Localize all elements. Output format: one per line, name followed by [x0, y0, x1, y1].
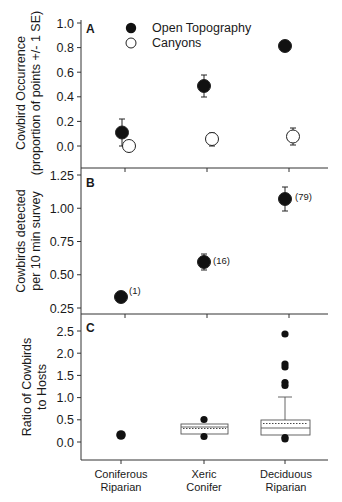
outlier-point — [281, 363, 288, 370]
figure: 0.0 0.2 0.4 0.6 0.8 1.0 Cowbird Occurren… — [0, 0, 342, 502]
outlier-point — [281, 330, 288, 337]
data-point — [279, 193, 292, 206]
data-point — [123, 140, 136, 153]
panel-b: 0.25 0.50 0.75 1.00 1.25 Cowbirds detect… — [14, 168, 328, 318]
legend-open-circle-icon — [126, 38, 136, 48]
sample-size-label: (16) — [213, 255, 230, 266]
panel-a-y-label-line2: (proportion of points +/- 1 SE) — [29, 11, 43, 175]
sample-size-label: (1) — [129, 285, 141, 296]
x-category-xeric-line1: Xeric — [191, 468, 217, 480]
outlier-point — [200, 433, 207, 440]
panel-b-tick: 1.00 — [50, 202, 74, 216]
legend: Open Topography Canyons — [126, 21, 252, 50]
x-category-coniferous-line2: Riparian — [101, 481, 142, 493]
data-point — [206, 133, 219, 146]
data-point — [287, 130, 300, 143]
panel-c-y-label-line1: Ratio of Cowbirds — [20, 338, 34, 437]
panel-b-y-label-line2: per 10 min survey — [29, 191, 43, 291]
panel-c-tick: 2.0 — [57, 347, 74, 361]
panel-b-tick: 0.50 — [50, 268, 74, 282]
outlier-point — [200, 416, 207, 423]
data-point — [279, 40, 292, 53]
legend-filled-circle-icon — [126, 23, 136, 33]
panel-b-label: B — [86, 176, 95, 190]
panel-a-tick: 0.4 — [57, 90, 74, 104]
panel-c-tick: 1.0 — [57, 391, 74, 405]
data-point — [116, 430, 126, 440]
series-cowbirds-detected — [115, 187, 292, 304]
panel-a-tick: 0.8 — [57, 41, 74, 55]
data-point — [198, 80, 211, 93]
data-point — [116, 126, 129, 139]
panel-c-tick: 1.5 — [57, 369, 74, 383]
x-category-deciduous-line1: Deciduous — [260, 468, 312, 480]
x-axis-categories: Coniferous Riparian Xeric Conifer Decidu… — [94, 468, 312, 493]
outlier-point — [281, 382, 288, 389]
panel-a-y-label-line1: Cowbird Occurrence — [14, 36, 28, 150]
panel-a-tick: 1.0 — [57, 17, 74, 31]
x-category-coniferous-line1: Coniferous — [94, 468, 148, 480]
box-deciduous-riparian — [261, 330, 310, 442]
series-canyons — [123, 128, 300, 153]
box-xeric-conifer — [181, 416, 228, 440]
panel-c-tick: 2.5 — [57, 325, 74, 339]
panel-b-tick: 0.25 — [50, 302, 74, 316]
outlier-point — [281, 435, 288, 442]
panel-a-tick: 0.0 — [57, 140, 74, 154]
panel-c: 0.0 0.5 1.0 1.5 2.0 2.5 Ratio of Cowbird… — [20, 314, 328, 464]
x-category-deciduous-line2: Riparian — [266, 481, 307, 493]
panel-a-label: A — [86, 22, 95, 36]
panel-c-tick: 0.0 — [57, 436, 74, 450]
x-category-xeric-line2: Conifer — [186, 481, 222, 493]
panel-c-label: C — [86, 321, 95, 335]
panel-b-y-label-line1: Cowbirds detected — [14, 189, 28, 293]
panel-c-tick: 0.5 — [57, 413, 74, 427]
panel-a-tick: 0.2 — [57, 115, 74, 129]
legend-canyons: Canyons — [152, 36, 201, 50]
panel-b-tick: 1.25 — [50, 169, 74, 183]
panel-b-tick: 0.75 — [50, 235, 74, 249]
panel-a-tick: 0.6 — [57, 66, 74, 80]
panel-a: 0.0 0.2 0.4 0.6 0.8 1.0 Cowbird Occurren… — [14, 11, 328, 175]
series-open-topography — [116, 40, 292, 147]
data-point — [198, 256, 211, 269]
legend-open-topography: Open Topography — [152, 21, 252, 35]
panel-c-y-label-line2: to Hosts — [35, 364, 49, 410]
data-point — [115, 291, 128, 304]
sample-size-label: (79) — [295, 191, 312, 202]
